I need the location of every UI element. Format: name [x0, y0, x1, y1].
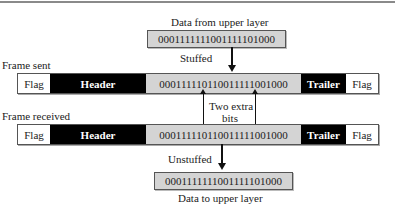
frame-sent-flag-right: Flag	[346, 74, 378, 93]
stuffed-arrow-icon	[228, 65, 236, 72]
frame-sent: Flag Header 000111110110011111001000 Tra…	[17, 73, 379, 94]
two-extra-bits-label: Two extra bits	[209, 100, 251, 124]
extra-bit-1-arrow-up-icon	[200, 89, 206, 94]
frame-received: Flag Header 000111110110011111001000 Tra…	[17, 124, 379, 145]
unstuffed-label: Unstuffed	[168, 153, 212, 165]
annotation-line-1: Two extra	[209, 100, 251, 112]
frame-received-header: Header	[50, 125, 146, 144]
stuffed-arrow-shaft	[231, 47, 233, 66]
frame-received-label: Frame received	[2, 110, 70, 122]
frame-sent-trailer: Trailer	[301, 74, 346, 93]
unstuffed-arrow-icon	[218, 163, 226, 170]
unstuffed-arrow-shaft	[221, 144, 223, 164]
frame-sent-payload: 000111110110011111001000	[146, 74, 301, 93]
frame-received-flag-right: Flag	[346, 125, 378, 144]
stuffed-label: Stuffed	[180, 52, 212, 64]
frame-received-payload: 000111110110011111001000	[146, 125, 301, 144]
frame-received-trailer: Trailer	[301, 125, 346, 144]
frame-received-flag-left: Flag	[18, 125, 50, 144]
top-border-line	[0, 1, 395, 3]
frame-sent-label: Frame sent	[2, 59, 51, 71]
extra-bit-2-arrow-up-icon	[252, 89, 258, 94]
annotation-line-2: bits	[209, 112, 251, 124]
top-data-label: Data from upper layer	[171, 16, 268, 28]
bottom-data-box: 0001111111001111101000	[154, 172, 293, 190]
frame-sent-flag-left: Flag	[18, 74, 50, 93]
bottom-data-label: Data to upper layer	[178, 192, 263, 204]
frame-sent-header: Header	[50, 74, 146, 93]
top-data-box: 0001111111001111101000	[147, 30, 286, 48]
